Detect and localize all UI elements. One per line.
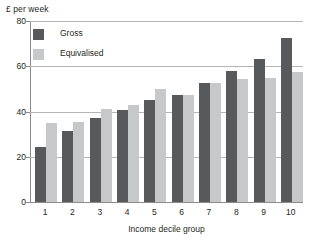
x-axis-title: Income decile group: [30, 224, 303, 234]
bar-gross-2: [62, 131, 73, 202]
bar-group-4: [117, 21, 139, 202]
bar-group-9: [254, 21, 276, 202]
bar-group-6: [172, 21, 194, 202]
bar-equivalised-5: [155, 89, 166, 202]
y-axis-tick-labels: 020406080: [0, 21, 26, 202]
bar-equivalised-2: [73, 122, 84, 202]
y-tick-label-60: 60: [17, 61, 26, 71]
legend-label-equivalised: Equivalised: [60, 48, 103, 58]
bar-gross-3: [90, 118, 101, 202]
bar-gross-9: [254, 59, 265, 202]
x-tick-label-9: 9: [250, 207, 277, 217]
bar-equivalised-7: [210, 83, 221, 202]
bar-gross-10: [281, 38, 292, 202]
bar-gross-6: [172, 95, 183, 202]
bar-gross-7: [199, 83, 210, 202]
bar-gross-5: [144, 100, 155, 202]
bar-equivalised-1: [46, 123, 57, 202]
bar-group-8: [226, 21, 248, 202]
bar-group-5: [144, 21, 166, 202]
x-tick-label-8: 8: [223, 207, 250, 217]
x-tick-label-1: 1: [32, 207, 59, 217]
y-tick-label-40: 40: [17, 107, 26, 117]
x-tick-label-2: 2: [59, 207, 86, 217]
bar-equivalised-3: [101, 109, 112, 202]
x-tick-label-5: 5: [141, 207, 168, 217]
bar-equivalised-4: [128, 105, 139, 202]
y-tick-label-20: 20: [17, 152, 26, 162]
bar-group-7: [199, 21, 221, 202]
bar-chart: £ per week 020406080 Income decile group…: [0, 0, 311, 245]
bar-group-10: [281, 21, 303, 202]
bar-equivalised-8: [237, 79, 248, 202]
legend-swatch-equivalised-icon: [33, 49, 44, 60]
y-axis-unit-label: £ per week: [6, 4, 49, 14]
x-tick-label-7: 7: [195, 207, 222, 217]
x-tick-label-10: 10: [277, 207, 304, 217]
bar-gross-1: [35, 147, 46, 202]
bar-equivalised-9: [265, 78, 276, 202]
bar-gross-4: [117, 110, 128, 202]
bar-equivalised-10: [292, 72, 303, 202]
x-tick-label-4: 4: [113, 207, 140, 217]
legend-swatch-gross-icon: [33, 29, 44, 40]
y-tick-label-80: 80: [17, 16, 26, 26]
x-tick-label-6: 6: [168, 207, 195, 217]
bar-equivalised-6: [183, 95, 194, 202]
legend-label-gross: Gross: [60, 28, 83, 38]
x-tick-label-3: 3: [86, 207, 113, 217]
gridline-0: [30, 202, 303, 203]
bar-gross-8: [226, 71, 237, 202]
